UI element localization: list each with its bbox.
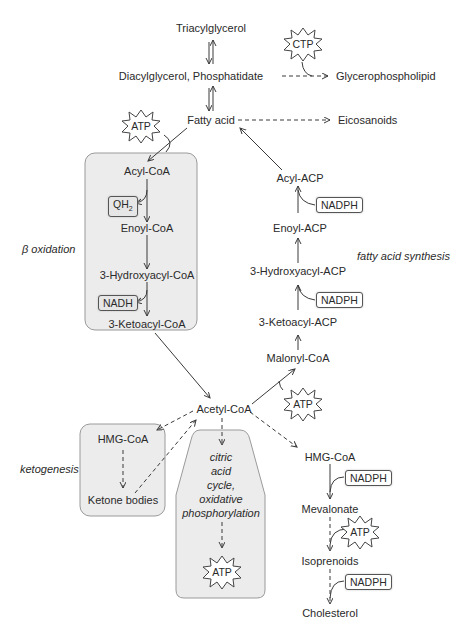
node-3-ketoacyl-acp: 3-Ketoacyl-ACP xyxy=(259,316,337,329)
cofactor-nadph-2: NADPH xyxy=(316,292,363,308)
node-eicosanoids: Eicosanoids xyxy=(338,114,397,127)
node-enoyl-acp: Enoyl-ACP xyxy=(273,222,327,235)
node-hmg-coa-ketogenesis: HMG-CoA xyxy=(98,433,149,446)
label-fatty-acid-synthesis: fatty acid synthesis xyxy=(357,250,450,263)
node-acyl-coa: Acyl-CoA xyxy=(124,165,170,178)
node-fatty-acid: Fatty acid xyxy=(187,114,235,127)
tca-line-2: acid xyxy=(182,464,260,478)
node-3-hydroxyacyl-coa: 3-Hydroxyacyl-CoA xyxy=(100,269,195,282)
cofactor-nadh: NADH xyxy=(98,295,138,311)
node-malonyl-coa: Malonyl-CoA xyxy=(267,352,330,365)
node-cholesterol: Cholesterol xyxy=(302,607,358,620)
cofactor-qh2: QH2 xyxy=(108,196,138,217)
tca-line-3: cycle, xyxy=(182,478,260,492)
label-beta-oxidation: β oxidation xyxy=(22,243,75,256)
node-diacylglycerol-phosphatidate: Diacylglycerol, Phosphatidate xyxy=(119,70,263,83)
node-3-hydroxyacyl-acp: 3-Hydroxyacyl-ACP xyxy=(250,265,346,278)
node-enoyl-coa: Enoyl-CoA xyxy=(121,222,174,235)
node-acetyl-coa: Acetyl-CoA xyxy=(196,403,251,416)
node-glycerophospholipid: Glycerophospholipid xyxy=(336,70,436,83)
node-mevalonate: Mevalonate xyxy=(302,503,359,516)
tca-line-5: phosphorylation xyxy=(182,506,260,520)
node-isoprenoids: Isoprenoids xyxy=(302,555,359,568)
cofactor-ctp: CTP xyxy=(293,38,314,50)
cofactor-atp-tca: ATP xyxy=(212,566,232,578)
node-triacylglycerol: Triacylglycerol xyxy=(176,22,246,35)
tca-line-4: oxidative xyxy=(182,492,260,506)
node-3-ketoacyl-coa: 3-Ketoacyl-CoA xyxy=(108,318,185,331)
cofactor-nadph-3: NADPH xyxy=(345,470,392,486)
cofactor-nadph-4: NADPH xyxy=(345,574,392,590)
cofactor-nadph-1: NADPH xyxy=(316,197,363,213)
node-ketone-bodies: Ketone bodies xyxy=(88,494,158,507)
cofactor-atp-malonyl: ATP xyxy=(293,398,313,410)
label-ketogenesis: ketogenesis xyxy=(20,463,79,476)
cofactor-atp-isoprenoids: ATP xyxy=(350,526,370,538)
tca-line-1: citric xyxy=(182,450,260,464)
node-acyl-acp: Acyl-ACP xyxy=(276,172,323,185)
pathway-diagram xyxy=(0,0,464,621)
node-hmg-coa: HMG-CoA xyxy=(305,451,356,464)
cofactor-atp-fatty-acid: ATP xyxy=(131,120,151,132)
label-tca-oxphos: citric acid cycle, oxidative phosphoryla… xyxy=(182,450,260,520)
